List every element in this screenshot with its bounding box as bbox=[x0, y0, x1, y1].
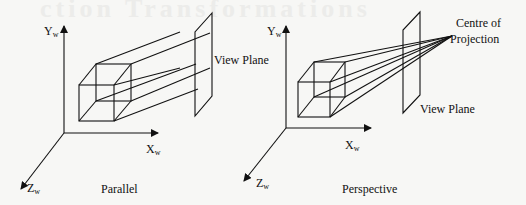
parallel-view-plane-label: View Plane bbox=[214, 54, 269, 66]
perspective-cube bbox=[298, 62, 345, 117]
parallel-projectors bbox=[96, 32, 210, 121]
parallel-y-axis-label: Yw bbox=[44, 25, 58, 39]
parallel-cube bbox=[79, 64, 131, 121]
perspective-z-axis-label: Zw bbox=[256, 177, 269, 191]
centre-of-projection-label-line2: Projection bbox=[450, 33, 499, 45]
parallel-z-axis-label: Zw bbox=[27, 182, 40, 196]
parallel-caption: Parallel bbox=[101, 183, 138, 195]
perspective-y-axis-label: Yw bbox=[267, 25, 281, 39]
perspective-view-plane-label: View Plane bbox=[420, 103, 475, 115]
perspective-axes bbox=[244, 26, 371, 181]
parallel-view-plane bbox=[195, 13, 212, 116]
perspective-x-axis-label: Xw bbox=[345, 139, 359, 153]
parallel-axes bbox=[21, 26, 158, 189]
parallel-x-axis-label: Xw bbox=[146, 143, 160, 157]
centre-of-projection-label-line1: Centre of bbox=[456, 17, 501, 29]
perspective-caption: Perspective bbox=[342, 183, 397, 195]
